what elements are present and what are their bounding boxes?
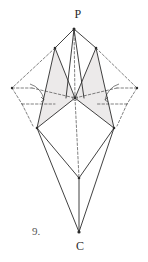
dashed-edge-left-FL-DL	[12, 88, 22, 104]
vertex-dot-UL	[54, 47, 57, 50]
geometry-figure: P C 9.	[0, 0, 148, 262]
vertex-dot-P	[73, 28, 76, 31]
vertex-dot-LR	[113, 127, 116, 130]
dashed-edge-axis-O-M	[75, 98, 79, 178]
dashed-edge-right-BR-LR	[117, 104, 127, 126]
vertex-dot-LL	[36, 127, 39, 130]
figure-number-label: 9.	[32, 226, 40, 237]
right-shaded-face	[75, 48, 114, 128]
solid-edge-P-UR	[74, 29, 96, 48]
solid-edge-LR-M	[79, 128, 114, 178]
vertex-dot-FL	[11, 87, 13, 89]
dashed-edge-right-FR-DR	[127, 88, 137, 104]
vertex-dot-C	[77, 230, 80, 233]
solid-edges-group	[37, 29, 114, 232]
left-shaded-face	[37, 48, 75, 128]
solid-edge-P-UL	[55, 29, 74, 48]
base-label-c: C	[6, 240, 148, 252]
vertex-dot-O-center	[74, 97, 76, 99]
solid-edge-LL-C	[37, 128, 79, 232]
dashed-edge-left-BL-LL	[22, 104, 33, 126]
solid-edge-LL-M	[37, 128, 79, 178]
apex-label-p: P	[4, 8, 148, 20]
dashed-edge-axis-P-O	[74, 29, 75, 98]
geometry-canvas	[0, 0, 148, 262]
shaded-faces-group	[37, 48, 114, 128]
vertex-dot-M	[78, 177, 81, 180]
solid-edge-LR-C	[79, 128, 114, 232]
vertex-dot-UR	[95, 47, 98, 50]
vertex-dot-FR	[136, 87, 138, 89]
dashed-edges-group	[12, 29, 137, 178]
